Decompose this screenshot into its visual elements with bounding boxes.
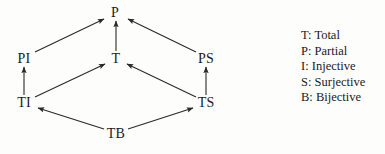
legend-item-s: S: Surjective <box>301 75 365 91</box>
node-ps: PS <box>198 52 214 66</box>
node-ts: TS <box>198 96 215 110</box>
edge-tb-to-ti <box>38 108 104 129</box>
edge-group <box>24 19 206 129</box>
edge-pi-to-p <box>35 19 104 52</box>
edge-ts-to-t <box>127 64 196 97</box>
edge-ti-to-t <box>35 64 105 97</box>
edge-ps-to-p <box>128 19 196 52</box>
legend-item-b: B: Bijective <box>301 90 365 106</box>
node-p: P <box>111 6 119 20</box>
node-pi: PI <box>18 52 31 66</box>
edge-tb-to-ts <box>128 108 193 129</box>
node-t: T <box>112 52 121 66</box>
legend-item-t: T: Total <box>301 28 365 44</box>
legend: T: TotalP: PartialI: InjectiveS: Surject… <box>301 28 365 106</box>
legend-item-p: P: Partial <box>301 44 365 60</box>
node-ti: TI <box>17 96 31 110</box>
node-tb: TB <box>107 127 125 141</box>
legend-item-i: I: Injective <box>301 59 365 75</box>
diagram-container: PPITPSTITSTB T: TotalP: PartialI: Inject… <box>0 0 385 154</box>
